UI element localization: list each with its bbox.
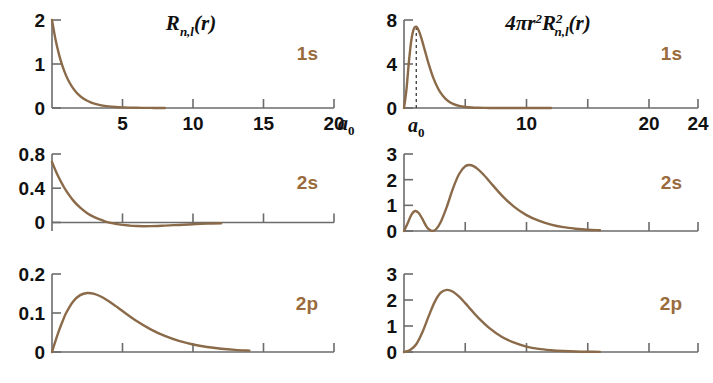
y-tick-label: 0.8 bbox=[19, 144, 45, 165]
data-curve-2s bbox=[404, 165, 600, 231]
y-tick-label: 2 bbox=[386, 290, 397, 311]
a0-annotation-subscript: 0 bbox=[418, 125, 425, 140]
y-tick-label: 1 bbox=[34, 54, 45, 75]
title-right-tail: (r) bbox=[569, 11, 591, 35]
y-tick-label: 4 bbox=[386, 54, 397, 75]
data-curve-2p bbox=[404, 290, 600, 352]
title-left-tail: (r) bbox=[194, 11, 216, 35]
orbital-label-1s: 1s bbox=[661, 43, 682, 64]
x-tick-label: 5 bbox=[117, 113, 128, 134]
x-axis-unit-subscript: 0 bbox=[348, 123, 355, 138]
panel-2p-radial: 00.10.22p bbox=[19, 264, 334, 363]
y-tick-label: 0.4 bbox=[19, 178, 46, 199]
title-right-R-subscript: n,l bbox=[554, 24, 568, 39]
x-tick-label: 10 bbox=[516, 113, 537, 134]
orbital-label-2p: 2p bbox=[296, 293, 318, 314]
data-curve-2s bbox=[52, 162, 221, 226]
y-tick-label: 3 bbox=[386, 144, 397, 165]
radial-wavefunction-figure: 01251015201s048102024a01s00.40.82s01232s… bbox=[0, 0, 713, 383]
y-tick-label: 0 bbox=[386, 221, 397, 242]
y-tick-label: 1 bbox=[386, 195, 397, 216]
orbital-label-1s: 1s bbox=[297, 43, 318, 64]
x-axis-unit-a0: a0 bbox=[338, 112, 355, 138]
x-tick-label: 15 bbox=[253, 113, 275, 134]
x-tick-label: 10 bbox=[182, 113, 203, 134]
y-tick-label: 0 bbox=[34, 98, 45, 119]
y-tick-label: 0 bbox=[34, 212, 45, 233]
y-tick-label: 0.1 bbox=[19, 303, 46, 324]
title-right: 4πr2R2n,l(r) bbox=[504, 11, 590, 39]
a0-annotation-label: a0 bbox=[408, 114, 425, 140]
y-tick-label: 0 bbox=[386, 98, 397, 119]
data-curve-1s bbox=[404, 27, 551, 108]
panel-2s-probability: 01232s bbox=[386, 144, 698, 242]
x-tick-label: 20 bbox=[638, 113, 659, 134]
y-tick-label: 3 bbox=[386, 264, 397, 285]
y-tick-label: 0.2 bbox=[19, 264, 45, 285]
title-left-subscript: n,l bbox=[180, 24, 194, 39]
x-tick-label: 24 bbox=[687, 113, 709, 134]
y-tick-label: 2 bbox=[386, 170, 397, 191]
panel-2p-probability: 01232p bbox=[386, 264, 698, 363]
figure-svg: 01251015201s048102024a01s00.40.82s01232s… bbox=[0, 0, 713, 383]
title-left: Rn,l(r) bbox=[165, 11, 216, 39]
y-tick-label: 8 bbox=[386, 10, 397, 31]
panel-2s-radial: 00.40.82s bbox=[19, 144, 334, 233]
orbital-label-2p: 2p bbox=[660, 293, 682, 314]
y-tick-label: 0 bbox=[386, 342, 397, 363]
data-curve-2p bbox=[52, 293, 249, 352]
orbital-label-2s: 2s bbox=[297, 172, 318, 193]
orbital-label-2s: 2s bbox=[661, 172, 682, 193]
data-curve-1s bbox=[52, 20, 165, 108]
y-tick-label: 1 bbox=[386, 316, 397, 337]
y-tick-label: 0 bbox=[34, 342, 45, 363]
y-tick-label: 2 bbox=[34, 10, 45, 31]
